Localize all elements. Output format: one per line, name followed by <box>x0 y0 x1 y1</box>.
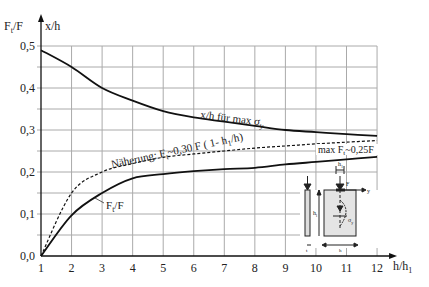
svg-text:h1: h1 <box>338 161 343 169</box>
y-tick-label: 0,0 <box>20 249 35 263</box>
svg-text:F: F <box>346 181 350 187</box>
x-tick-label: 12 <box>371 261 383 275</box>
y-tick-label: 0,1 <box>20 207 35 221</box>
y-tick-label: 0,5 <box>20 39 35 53</box>
x-tick-label: 9 <box>282 261 288 275</box>
y-axis-label-left: Ft/F <box>4 19 23 35</box>
x-tick-label: 4 <box>130 261 136 275</box>
y-axis-arrow-icon <box>38 14 44 22</box>
svg-text:y: y <box>367 188 370 194</box>
chart: 1234567891011120,00,10,20,30,40,5 Ft/F x… <box>0 0 429 287</box>
x-tick-label: 10 <box>310 261 322 275</box>
y-tick-label: 0,3 <box>20 123 35 137</box>
x-tick-label: 7 <box>221 261 227 275</box>
x-tick-label: 1 <box>38 261 44 275</box>
inset-diagram: h1 F y hl t h σy <box>300 161 380 253</box>
y-tick-label: 0,4 <box>20 81 35 95</box>
x-axis-label: h/h1 <box>393 259 412 275</box>
x-tick-label: 11 <box>341 261 353 275</box>
x-tick-label: 6 <box>191 261 197 275</box>
x-tick-label: 3 <box>99 261 105 275</box>
label-ft-curve: Ft/F <box>106 199 124 214</box>
x-tick-label: 8 <box>252 261 258 275</box>
svg-text:t: t <box>306 248 308 253</box>
curve-0 <box>41 50 377 136</box>
y-axis-label-right: x/h <box>45 19 60 33</box>
x-tick-label: 2 <box>69 261 75 275</box>
svg-text:h: h <box>339 248 342 253</box>
x-tick-label: 5 <box>160 261 166 275</box>
y-tick-label: 0,2 <box>20 165 35 179</box>
